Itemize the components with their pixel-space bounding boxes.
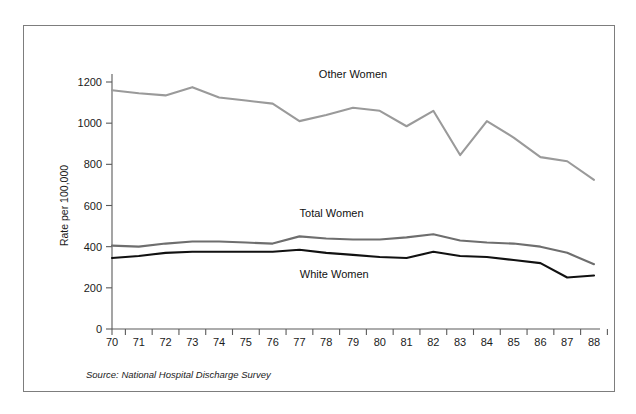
x-tick-label-82: 82 [427,336,439,348]
y-tick-label-0: 0 [96,323,102,335]
x-tick-label-74: 74 [213,336,225,348]
x-tick-label-85: 85 [508,336,520,348]
series-line-other-women [112,87,594,180]
x-tick-label-77: 77 [293,336,305,348]
series-label-white-women: White Women [300,268,369,280]
x-tick-label-81: 81 [400,336,412,348]
y-tick-label-200: 200 [84,282,102,294]
x-tick-label-84: 84 [481,336,493,348]
x-tick-label-80: 80 [374,336,386,348]
x-tick-label-83: 83 [454,336,466,348]
x-tick-label-70: 70 [106,336,118,348]
series-label-other-women: Other Women [319,68,387,80]
y-tick-label-800: 800 [84,158,102,170]
x-tick-label-78: 78 [320,336,332,348]
x-tick-label-72: 72 [159,336,171,348]
chart-canvas: 0200400600800100012007071727374757677787… [24,26,614,391]
line-chart: 0200400600800100012007071727374757677787… [24,26,614,391]
y-axis-title: Rate per 100,000 [58,165,70,246]
x-tick-label-76: 76 [267,336,279,348]
x-tick-label-73: 73 [186,336,198,348]
y-tick-label-1200: 1200 [78,76,102,88]
series-label-total-women: Total Women [300,207,364,219]
x-tick-label-79: 79 [347,336,359,348]
y-tick-label-1000: 1000 [78,117,102,129]
y-tick-label-400: 400 [84,241,102,253]
series-line-total-women [112,234,594,264]
source-note: Source: National Hospital Discharge Surv… [86,369,272,380]
x-tick-label-88: 88 [588,336,600,348]
x-tick-label-86: 86 [534,336,546,348]
y-tick-label-600: 600 [84,200,102,212]
x-tick-label-75: 75 [240,336,252,348]
x-tick-label-87: 87 [561,336,573,348]
chart-frame: 0200400600800100012007071727374757677787… [23,25,615,392]
x-tick-label-71: 71 [133,336,145,348]
